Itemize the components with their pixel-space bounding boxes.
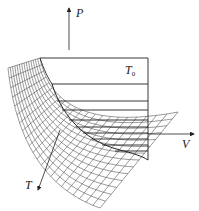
isotherm-t0-label: T0: [125, 64, 135, 78]
t-axis-label: T: [25, 179, 32, 191]
isotherm-t-letter: T: [125, 63, 132, 77]
v-axis-label: V: [182, 138, 189, 150]
p-axis-label: P: [76, 7, 83, 19]
isotherm-subscript: 0: [132, 70, 136, 78]
